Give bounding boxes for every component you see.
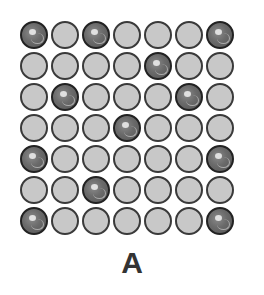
- light-atom-icon: [144, 83, 172, 111]
- grid-cell: [111, 143, 142, 174]
- grid-cell: [18, 174, 49, 205]
- dark-atom-icon: [206, 21, 234, 49]
- grid-cell: [142, 174, 173, 205]
- light-atom-icon: [20, 114, 48, 142]
- light-atom-icon: [175, 176, 203, 204]
- light-atom-icon: [144, 114, 172, 142]
- light-atom-icon: [51, 52, 79, 80]
- dark-atom-icon: [206, 145, 234, 173]
- light-atom-icon: [51, 21, 79, 49]
- light-atom-icon: [206, 114, 234, 142]
- grid-cell: [204, 50, 235, 81]
- grid-cell: [204, 19, 235, 50]
- light-atom-icon: [206, 83, 234, 111]
- light-atom-icon: [175, 114, 203, 142]
- light-atom-icon: [82, 145, 110, 173]
- grid-cell: [111, 112, 142, 143]
- grid-cell: [204, 174, 235, 205]
- light-atom-icon: [175, 52, 203, 80]
- light-atom-icon: [51, 176, 79, 204]
- light-atom-icon: [144, 145, 172, 173]
- light-atom-icon: [51, 207, 79, 235]
- figure-label: A: [0, 246, 264, 280]
- grid-cell: [18, 143, 49, 174]
- grid-cell: [80, 50, 111, 81]
- grid-cell: [18, 205, 49, 236]
- light-atom-icon: [82, 83, 110, 111]
- light-atom-icon: [144, 207, 172, 235]
- dark-atom-icon: [206, 207, 234, 235]
- light-atom-icon: [113, 83, 141, 111]
- grid-cell: [142, 81, 173, 112]
- grid-cell: [204, 205, 235, 236]
- grid-cell: [173, 174, 204, 205]
- dark-atom-icon: [51, 83, 79, 111]
- light-atom-icon: [20, 83, 48, 111]
- grid-cell: [49, 112, 80, 143]
- light-atom-icon: [113, 207, 141, 235]
- dark-atom-icon: [82, 21, 110, 49]
- dark-atom-icon: [113, 114, 141, 142]
- grid-cell: [173, 19, 204, 50]
- dark-atom-icon: [20, 21, 48, 49]
- grid-cell: [49, 143, 80, 174]
- light-atom-icon: [113, 52, 141, 80]
- light-atom-icon: [51, 114, 79, 142]
- grid-cell: [173, 205, 204, 236]
- grid-cell: [204, 112, 235, 143]
- grid-cell: [173, 81, 204, 112]
- grid-cell: [49, 81, 80, 112]
- light-atom-icon: [113, 21, 141, 49]
- light-atom-icon: [175, 21, 203, 49]
- grid-cell: [142, 50, 173, 81]
- dark-atom-icon: [82, 176, 110, 204]
- light-atom-icon: [113, 176, 141, 204]
- grid-cell: [80, 19, 111, 50]
- light-atom-icon: [51, 145, 79, 173]
- grid-cell: [49, 205, 80, 236]
- grid-cell: [142, 112, 173, 143]
- grid-cell: [173, 112, 204, 143]
- dark-atom-icon: [20, 207, 48, 235]
- light-atom-icon: [82, 114, 110, 142]
- grid-cell: [142, 19, 173, 50]
- light-atom-icon: [20, 176, 48, 204]
- grid-cell: [142, 205, 173, 236]
- grid-cell: [49, 19, 80, 50]
- light-atom-icon: [206, 176, 234, 204]
- light-atom-icon: [144, 21, 172, 49]
- atom-grid: [18, 19, 235, 236]
- grid-cell: [18, 112, 49, 143]
- grid-cell: [49, 174, 80, 205]
- light-atom-icon: [175, 207, 203, 235]
- light-atom-icon: [144, 176, 172, 204]
- dark-atom-icon: [144, 52, 172, 80]
- grid-cell: [49, 50, 80, 81]
- grid-cell: [204, 81, 235, 112]
- grid-cell: [111, 81, 142, 112]
- grid-cell: [18, 81, 49, 112]
- grid-cell: [111, 50, 142, 81]
- grid-cell: [80, 112, 111, 143]
- grid-cell: [111, 205, 142, 236]
- grid-cell: [173, 50, 204, 81]
- grid-cell: [18, 50, 49, 81]
- light-atom-icon: [113, 145, 141, 173]
- grid-cell: [80, 205, 111, 236]
- light-atom-icon: [20, 52, 48, 80]
- grid-cell: [173, 143, 204, 174]
- grid-cell: [18, 19, 49, 50]
- light-atom-icon: [206, 52, 234, 80]
- dark-atom-icon: [20, 145, 48, 173]
- grid-cell: [80, 81, 111, 112]
- grid-cell: [111, 174, 142, 205]
- dark-atom-icon: [175, 83, 203, 111]
- light-atom-icon: [82, 52, 110, 80]
- light-atom-icon: [175, 145, 203, 173]
- grid-cell: [80, 143, 111, 174]
- grid-cell: [111, 19, 142, 50]
- grid-cell: [204, 143, 235, 174]
- light-atom-icon: [82, 207, 110, 235]
- grid-cell: [80, 174, 111, 205]
- grid-cell: [142, 143, 173, 174]
